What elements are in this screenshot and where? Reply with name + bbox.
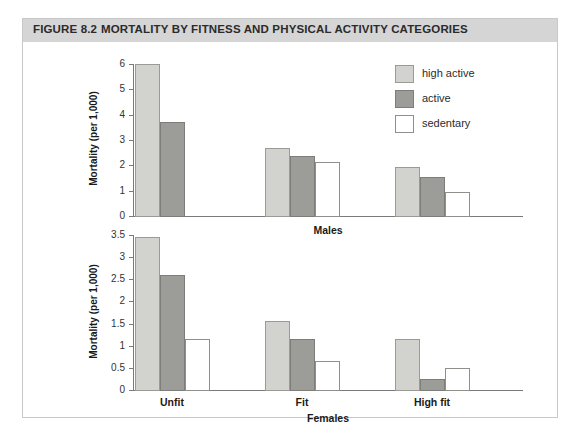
bar bbox=[445, 192, 470, 217]
category-label: Fit bbox=[252, 396, 352, 408]
legend-swatch-s-act bbox=[395, 90, 414, 108]
y-tick-mark bbox=[129, 140, 133, 141]
y-tick-mark bbox=[129, 89, 133, 90]
y-axis-title: Mortality (per 1,000) bbox=[88, 63, 99, 215]
bar bbox=[395, 167, 420, 217]
y-tick-mark bbox=[129, 257, 133, 258]
category-label: High fit bbox=[382, 396, 482, 408]
y-axis-line bbox=[133, 64, 134, 217]
y-tick-mark bbox=[129, 390, 133, 391]
bar bbox=[185, 339, 210, 391]
bar bbox=[160, 275, 185, 391]
y-tick-mark bbox=[129, 368, 133, 369]
figure-title: MORTALITY BY FITNESS AND PHYSICAL ACTIVI… bbox=[101, 23, 468, 35]
x-axis-title: Females bbox=[133, 412, 523, 424]
y-tick-mark bbox=[129, 115, 133, 116]
legend-item: high active bbox=[395, 64, 545, 86]
bar bbox=[135, 64, 160, 217]
chart-females: 00.511.522.533.5Mortality (per 1,000)Unf… bbox=[23, 217, 557, 417]
legend-swatch-s-sed bbox=[395, 115, 414, 133]
bar bbox=[395, 339, 420, 391]
figure-panel: FIGURE 8.2 MORTALITY BY FITNESS AND PHYS… bbox=[22, 18, 558, 418]
y-tick-mark bbox=[129, 235, 133, 236]
y-axis-line bbox=[133, 235, 134, 391]
y-tick-mark bbox=[129, 191, 133, 192]
bar bbox=[290, 339, 315, 391]
bar bbox=[265, 321, 290, 391]
legend-item: sedentary bbox=[395, 114, 545, 136]
bar bbox=[160, 122, 185, 217]
legend-swatch-s-high bbox=[395, 65, 414, 83]
legend-label: sedentary bbox=[422, 117, 470, 129]
bar bbox=[420, 379, 445, 391]
bar bbox=[445, 368, 470, 391]
y-tick-mark bbox=[129, 279, 133, 280]
bar bbox=[420, 177, 445, 217]
figure-title-bar: FIGURE 8.2 MORTALITY BY FITNESS AND PHYS… bbox=[23, 19, 557, 42]
y-tick-mark bbox=[129, 324, 133, 325]
bar bbox=[265, 148, 290, 217]
y-tick-mark bbox=[129, 346, 133, 347]
bar bbox=[135, 237, 160, 391]
bar bbox=[315, 361, 340, 391]
chart-legend: high activeactivesedentary bbox=[395, 64, 545, 139]
category-label: Unfit bbox=[122, 396, 222, 408]
bar bbox=[290, 156, 315, 217]
y-axis-title: Mortality (per 1,000) bbox=[88, 234, 99, 389]
figure-number: FIGURE 8.2 bbox=[33, 23, 97, 35]
legend-label: high active bbox=[422, 67, 475, 79]
y-tick-mark bbox=[129, 165, 133, 166]
bar bbox=[315, 162, 340, 217]
y-tick-mark bbox=[129, 64, 133, 65]
legend-item: active bbox=[395, 89, 545, 111]
legend-label: active bbox=[422, 92, 451, 104]
y-tick-mark bbox=[129, 301, 133, 302]
